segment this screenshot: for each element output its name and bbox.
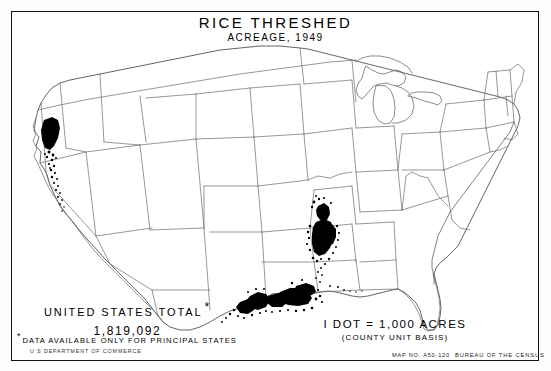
great-lakes [356, 66, 406, 99]
michigan-thumb [392, 86, 414, 123]
footnote-asterisk: * [17, 331, 22, 341]
dot-legend: I DOT = 1,000 ACRES (COUNTY UNIT BASIS) [300, 318, 490, 342]
total-label-text: UNITED STATES TOTAL [44, 306, 203, 318]
footnote: *DATA AVAILABLE ONLY FOR PRINCIPAL STATE… [17, 331, 237, 345]
map-sheet: RICE THRESHED ACREAGE, 1949 UNITED STATE… [0, 0, 551, 371]
dot-unit-label: I DOT = 1,000 ACRES [300, 318, 490, 330]
dot-basis-label: (COUNTY UNIT BASIS) [300, 333, 490, 342]
page-subtitle: ACREAGE, 1949 [0, 32, 551, 43]
asterisk-marker: * [204, 300, 211, 314]
dots-arkansas-delta [306, 219, 340, 283]
rice-acreage-dots [41, 117, 363, 323]
department-credit: U S DEPARTMENT OF COMMERCE [30, 348, 142, 354]
canada-border [38, 60, 356, 110]
dots-missouri-bootheel [311, 195, 332, 221]
map-number: MAP NO. A50-120 [392, 352, 450, 358]
state-boundaries [33, 46, 524, 331]
dots-louisiana-gulf [266, 279, 323, 313]
footnote-text: DATA AVAILABLE ONLY FOR PRINCIPAL STATES [23, 336, 237, 345]
bureau-credit: BUREAU OF THE CENSUS [455, 352, 545, 358]
west-coast [33, 118, 162, 320]
total-label: UNITED STATES TOTAL* [44, 300, 211, 318]
page-title: RICE THRESHED [0, 14, 551, 31]
lake-michigan [373, 86, 395, 124]
